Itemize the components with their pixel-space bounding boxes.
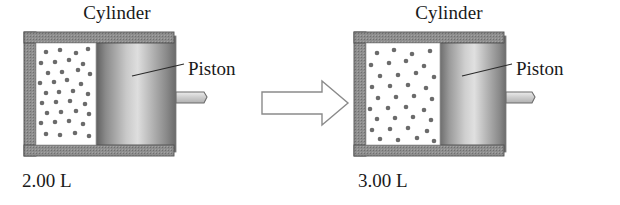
piston-label-after: Piston — [516, 58, 564, 80]
gas-chamber-after — [366, 43, 440, 145]
cylinder-drawing-after — [310, 0, 620, 205]
piston-label-before: Piston — [188, 58, 236, 80]
volume-label-before: 2.00 L — [22, 170, 72, 192]
piston-rod-before — [176, 92, 207, 103]
piston-rod-after — [506, 92, 535, 103]
gas-chamber-before — [36, 43, 96, 145]
cylinder-panel-after: Cylinder — [310, 0, 620, 205]
piston-block-before — [96, 36, 176, 152]
volume-label-after: 3.00 L — [358, 170, 408, 192]
piston-block-after — [440, 36, 506, 152]
gas-expansion-figure: Cylinder — [0, 0, 620, 205]
